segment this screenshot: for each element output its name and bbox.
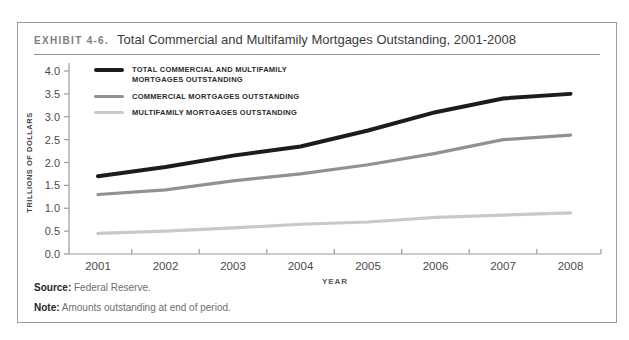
x-tick-label: 2001	[85, 260, 111, 272]
y-tick-label: 2.5	[45, 134, 60, 146]
x-tick-label: 2005	[355, 260, 381, 272]
legend-item-total: TOTAL COMMERCIAL AND MULTIFAMILY MORTGAG…	[94, 65, 310, 85]
x-tick-label: 2004	[288, 260, 314, 272]
y-tick-label: 2.0	[45, 157, 60, 169]
y-tick-label: 1.0	[45, 202, 60, 214]
legend-label-total: TOTAL COMMERCIAL AND MULTIFAMILY MORTGAG…	[132, 65, 310, 85]
x-tick-label: 2003	[220, 260, 246, 272]
legend-label-commercial: COMMERCIAL MORTGAGES OUTSTANDING	[132, 92, 299, 102]
legend-item-commercial: COMMERCIAL MORTGAGES OUTSTANDING	[94, 92, 310, 102]
x-tick-label: 2002	[153, 260, 179, 272]
note-label: Note:	[34, 302, 60, 313]
y-tick-label: 0.0	[45, 248, 60, 260]
x-tick-label: 2008	[558, 260, 584, 272]
y-tick-label: 3.0	[45, 111, 60, 123]
legend-line-sample-total	[94, 68, 124, 72]
y-tick-label: 0.5	[45, 225, 60, 237]
legend-line-sample-commercial	[94, 95, 124, 98]
y-tick-label: 1.5	[45, 179, 60, 191]
source-text: Federal Reserve.	[74, 282, 151, 293]
exhibit-panel: EXHIBIT 4-6. Total Commercial and Multif…	[17, 22, 617, 323]
legend-item-multifamily: MULTIFAMILY MORTGAGES OUTSTANDING	[94, 108, 310, 118]
legend-label-multifamily: MULTIFAMILY MORTGAGES OUTSTANDING	[132, 108, 297, 118]
y-tick-label: 3.5	[45, 88, 60, 100]
note-text: Amounts outstanding at end of period.	[62, 302, 231, 313]
line-series-multifamily	[98, 213, 571, 234]
period-note: Note: Amounts outstanding at end of peri…	[34, 302, 231, 313]
x-tick-label: 2007	[490, 260, 516, 272]
y-axis-title: TRILLIONS OF DOLLARS	[25, 112, 34, 212]
source-label: Source:	[34, 282, 71, 293]
legend-line-sample-multifamily	[94, 111, 124, 114]
x-axis-title: YEAR	[322, 277, 348, 286]
x-tick-label: 2006	[423, 260, 449, 272]
chart-legend: TOTAL COMMERCIAL AND MULTIFAMILY MORTGAG…	[94, 65, 310, 118]
y-tick-label: 4.0	[45, 65, 60, 77]
source-note: Source: Federal Reserve.	[34, 282, 151, 293]
